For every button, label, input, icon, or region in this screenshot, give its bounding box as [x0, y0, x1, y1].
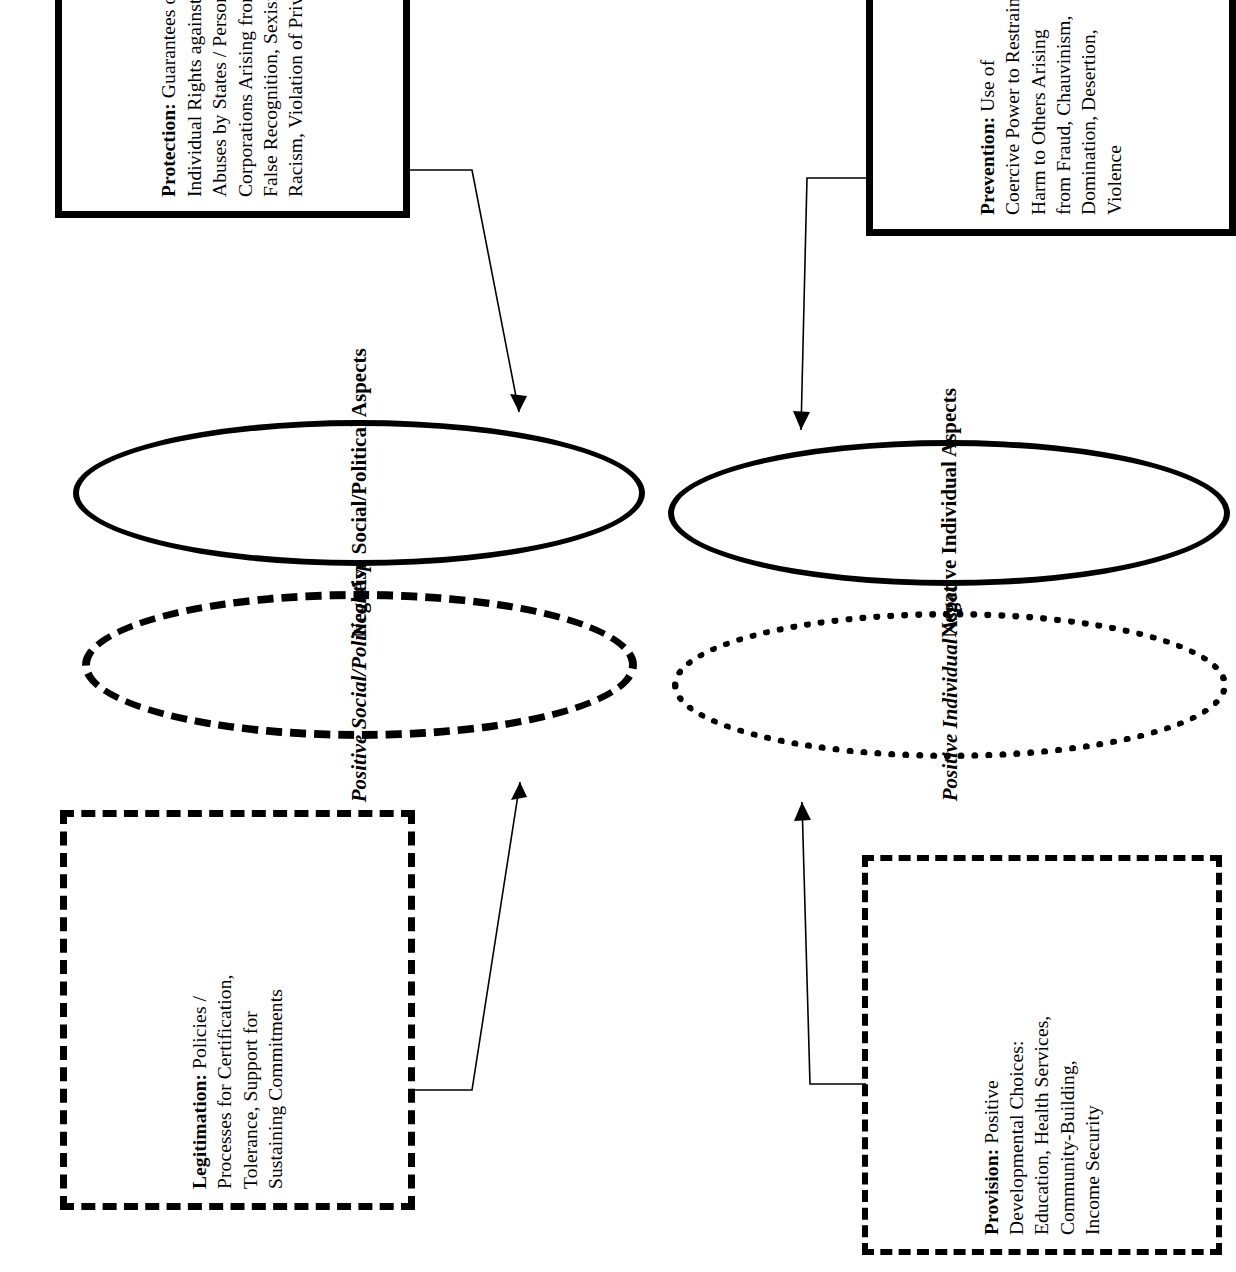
- box-protection-line-2: Individual Rights against: [182, 0, 207, 197]
- box-provision-line-5: Income Security: [1080, 1016, 1105, 1235]
- arrow-head: [511, 782, 527, 800]
- arrow-head: [793, 411, 810, 430]
- box-prevention-line-5: Domination, Desertion,: [1076, 0, 1101, 215]
- box-protection[interactable]: Protection: Guarantees of Individual Rig…: [55, 0, 410, 218]
- arrow-protection-to-negative-social: [406, 132, 536, 432]
- arrow-legitimation-to-positive-social: [412, 752, 537, 1112]
- box-protection-line-6: Racism, Violation of Privacy: [283, 0, 308, 197]
- box-protection-line-1: Protection: Guarantees of: [156, 0, 181, 197]
- box-provision-line-3: Education, Health Services,: [1029, 1016, 1054, 1235]
- ellipse-negative-individual[interactable]: Negative Individual Aspects: [668, 440, 1230, 586]
- arrow-prevention-to-negative-individual: [775, 132, 880, 452]
- box-protection-line-3: Abuses by States / Persons /: [207, 0, 232, 197]
- arrow-line: [801, 178, 871, 430]
- box-protection-line-5: False Recognition, Sexism,: [258, 0, 283, 197]
- box-provision[interactable]: Provision: Positive Developmental Choice…: [862, 855, 1222, 1255]
- box-protection-text: Protection: Guarantees of Individual Rig…: [156, 0, 308, 197]
- box-provision-line-4: Community-Building,: [1055, 1016, 1080, 1235]
- box-prevention-line-6: Violence: [1102, 0, 1127, 215]
- arrow-provision-to-positive-individual: [778, 772, 873, 1132]
- box-prevention[interactable]: Prevention: Use of Coercive Power to Res…: [866, 0, 1236, 236]
- arrow-head: [510, 394, 527, 412]
- box-provision-line-1: Provision: Positive: [979, 1016, 1004, 1235]
- box-legitimation-line-2: Processes for Certification,: [212, 974, 237, 1189]
- box-prevention-line-3: Harm to Others Arising: [1026, 0, 1051, 215]
- box-legitimation-text: Legitimation: Policies / Processes for C…: [187, 974, 288, 1189]
- box-prevention-text: Prevention: Use of Coercive Power to Res…: [975, 0, 1127, 215]
- ellipse-negative-social-political[interactable]: Negative Social/Political Aspects: [73, 420, 645, 566]
- box-legitimation-line-3: Tolerance, Support for: [238, 974, 263, 1189]
- box-protection-line-4: Corporations Arising from: [233, 0, 258, 197]
- box-legitimation[interactable]: Legitimation: Policies / Processes for C…: [60, 810, 415, 1210]
- box-prevention-line-2: Coercive Power to Restrain: [1000, 0, 1025, 215]
- ellipse-negative-social-political-label: Negative Social/Political Aspects: [347, 348, 371, 637]
- arrow-line: [406, 170, 519, 412]
- box-provision-text: Provision: Positive Developmental Choice…: [979, 1016, 1106, 1235]
- box-legitimation-line-1: Legitimation: Policies /: [187, 974, 212, 1189]
- arrow-line: [412, 782, 520, 1090]
- box-provision-line-2: Developmental Choices:: [1004, 1016, 1029, 1235]
- box-prevention-line-1: Prevention: Use of: [975, 0, 1000, 215]
- ellipse-negative-individual-label: Negative Individual Aspects: [937, 388, 961, 638]
- arrow-head: [794, 802, 811, 821]
- arrow-line: [802, 802, 866, 1084]
- box-legitimation-line-4: Sustaining Commitments: [263, 974, 288, 1189]
- box-prevention-line-4: from Fraud, Chauvinism,: [1051, 0, 1076, 215]
